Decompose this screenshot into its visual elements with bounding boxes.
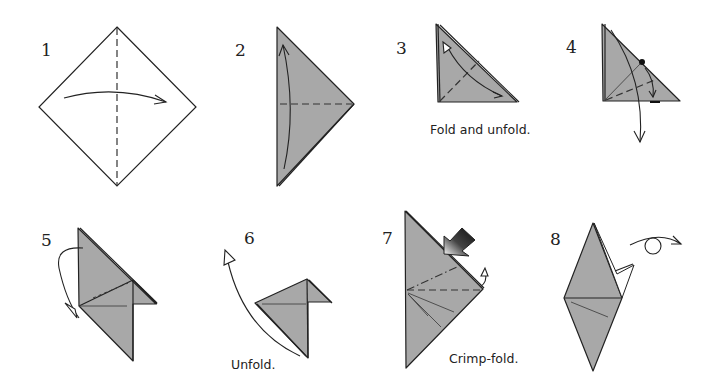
step-8: 8 bbox=[550, 223, 681, 371]
step-number-5: 5 bbox=[41, 230, 52, 250]
arrowhead-icon bbox=[634, 131, 645, 142]
step-number-4: 4 bbox=[566, 37, 577, 57]
step-3: 3 Fold and unfold. bbox=[396, 24, 531, 137]
step-4: 4 bbox=[566, 24, 680, 142]
folded-model bbox=[78, 228, 156, 361]
turn-over-loop-icon bbox=[645, 238, 661, 254]
folded-triangle bbox=[436, 24, 517, 102]
step-number-3: 3 bbox=[396, 38, 407, 58]
step-number-8: 8 bbox=[550, 229, 561, 249]
hollow-arrowhead-icon bbox=[481, 268, 488, 276]
step-6: 6 Unfold. bbox=[224, 228, 332, 372]
step-1: 1 bbox=[39, 27, 196, 186]
step-caption-7: Crimp-fold. bbox=[449, 351, 518, 366]
step-caption-6: Unfold. bbox=[231, 357, 276, 372]
step-caption-3: Fold and unfold. bbox=[430, 122, 531, 137]
step-7: 7 Crimp-fold. bbox=[382, 211, 518, 368]
hollow-arrowhead-icon bbox=[224, 250, 235, 265]
folded-model bbox=[564, 223, 622, 371]
origami-diagram: 1 2 3 Fold and unfold. 4 bbox=[0, 0, 717, 375]
step-number-6: 6 bbox=[244, 228, 255, 248]
step-number-1: 1 bbox=[41, 40, 52, 60]
folded-triangle bbox=[277, 27, 354, 186]
step-number-7: 7 bbox=[382, 228, 393, 248]
push-arrow-icon bbox=[444, 228, 475, 256]
step-number-2: 2 bbox=[235, 40, 246, 60]
step-2: 2 bbox=[235, 27, 354, 186]
reference-dot-icon bbox=[639, 59, 645, 65]
step-5: 5 bbox=[41, 228, 157, 361]
